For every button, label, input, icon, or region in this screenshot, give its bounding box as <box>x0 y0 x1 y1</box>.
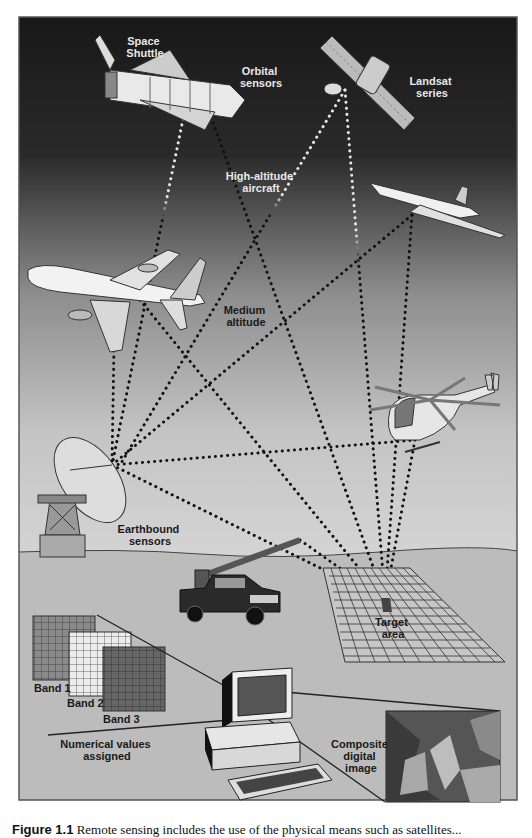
label-band-3: Band 3 <box>103 713 140 725</box>
label-medium-altitude: Medium altitude <box>224 304 269 328</box>
caption-text: Remote sensing includes the use of the p… <box>77 822 462 837</box>
composite-image <box>386 711 500 802</box>
label-band-1: Band 1 <box>34 682 71 694</box>
label-space-shuttle: Space Shuttle <box>126 35 163 59</box>
band-3-grid <box>103 647 165 711</box>
label-band-2: Band 2 <box>67 697 104 709</box>
label-landsat-series: Landsat series <box>409 75 454 99</box>
figure-caption: Figure 1.1 Remote sensing includes the u… <box>12 822 532 838</box>
label-orbital-sensors: Orbital sensors <box>240 65 282 89</box>
caption-label: Figure 1.1 <box>12 822 73 837</box>
